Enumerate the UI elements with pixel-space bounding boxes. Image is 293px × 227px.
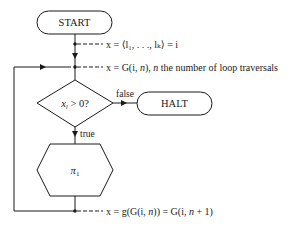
junction-dot [73,65,77,69]
flowchart: START x = ⟨l₁, . . ., lₖ⟩ = i x = G(i, n… [0,0,293,227]
process-node: π1 [37,144,113,196]
true-label: true [80,129,95,139]
start-label: START [59,17,91,28]
start-node: START [37,11,112,34]
annotation-input-encoding: x = ⟨l₁, . . ., lₖ⟩ = i [106,39,178,50]
arrow-down-icon [72,53,78,59]
halt-node: HALT [137,92,212,115]
decision-node: xl > 0? [37,80,113,127]
junction-dot [73,42,77,46]
annotation-loop-state: x = G(i, n), n the number of loop traver… [106,62,278,74]
false-label: false [116,89,134,99]
halt-label: HALT [161,98,189,109]
arrow-right-icon [121,100,127,106]
arrow-down-icon [72,131,78,137]
arrow-right-icon [40,64,46,70]
junction-dot [73,209,77,213]
annotation-loop-update: x = g(G(i, n)) = G(i, n + 1) [106,206,213,218]
